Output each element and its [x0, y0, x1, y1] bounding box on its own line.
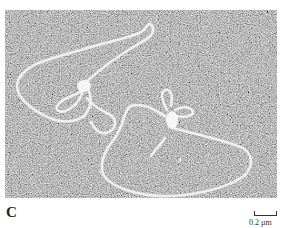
- panel-label: C: [6, 204, 17, 221]
- electron-micrograph: [5, 10, 277, 198]
- scale-bar: [254, 211, 277, 216]
- scale-bar-label: 0.2 µm: [249, 218, 272, 227]
- figure-panel: C 0.2 µm: [0, 0, 283, 228]
